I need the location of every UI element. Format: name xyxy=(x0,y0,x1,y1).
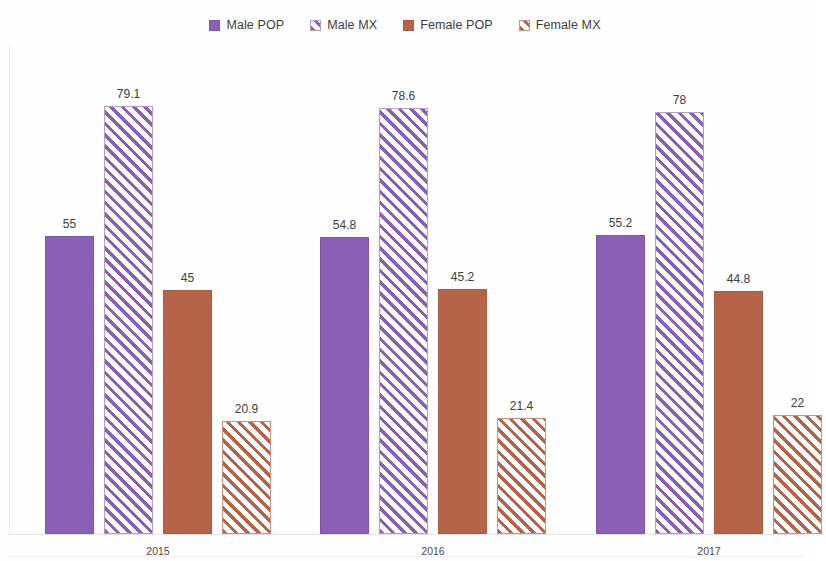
y-axis-line xyxy=(9,46,10,535)
bar-value-label-male-pop-2017: 55.2 xyxy=(582,216,659,230)
bar-female-mx-2017[interactable] xyxy=(773,415,822,534)
bar-value-label-male-pop-2016: 54.8 xyxy=(306,218,383,232)
bar-female-pop-2016[interactable] xyxy=(438,289,487,534)
x-tick-label-2016: 2016 xyxy=(290,545,576,557)
bar-value-label-female-mx-2015: 20.9 xyxy=(208,402,285,416)
bar-value-label-female-pop-2017: 44.8 xyxy=(700,272,777,286)
bar-value-label-male-mx-2015: 79.1 xyxy=(90,87,167,101)
x-tick-label-2017: 2017 xyxy=(566,545,826,557)
bar-female-pop-2015[interactable] xyxy=(163,290,212,534)
bar-female-mx-2016[interactable] xyxy=(497,418,546,534)
bar-value-label-male-pop-2015: 55 xyxy=(31,217,108,231)
x-axis-line xyxy=(9,534,803,535)
bar-value-label-female-mx-2017: 22 xyxy=(759,396,826,410)
bar-male-mx-2016[interactable] xyxy=(379,108,428,534)
bar-value-label-female-pop-2016: 45.2 xyxy=(424,270,501,284)
x-tick-label-2015: 2015 xyxy=(15,545,301,557)
bar-value-label-female-pop-2015: 45 xyxy=(149,271,226,285)
bar-male-pop-2015[interactable] xyxy=(45,236,94,534)
bar-male-pop-2017[interactable] xyxy=(596,235,645,534)
bar-female-mx-2015[interactable] xyxy=(222,421,271,534)
bar-male-pop-2016[interactable] xyxy=(320,237,369,534)
bar-male-mx-2017[interactable] xyxy=(655,112,704,534)
bar-value-label-male-mx-2016: 78.6 xyxy=(365,89,442,103)
bar-value-label-female-mx-2016: 21.4 xyxy=(483,399,560,413)
bar-value-label-male-mx-2017: 78 xyxy=(641,93,718,107)
bar-female-pop-2017[interactable] xyxy=(714,291,763,534)
bar-male-mx-2015[interactable] xyxy=(104,106,153,534)
